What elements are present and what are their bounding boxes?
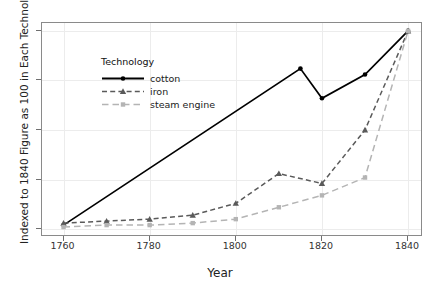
data-point <box>104 223 108 227</box>
plot-panel: Technology cottonironsteam engine <box>41 22 422 236</box>
data-point <box>233 200 239 206</box>
plot-series-layer <box>42 23 421 235</box>
data-point <box>406 29 410 33</box>
data-point <box>277 205 281 209</box>
data-point <box>191 221 195 225</box>
data-point <box>362 127 368 133</box>
x-tick-label: 1800 <box>215 240 255 251</box>
legend-key-icon <box>101 72 145 85</box>
legend-item-cotton[interactable]: cotton <box>101 72 215 85</box>
x-tick-mark <box>407 236 408 241</box>
legend-item-iron[interactable]: iron <box>101 85 215 98</box>
legend-title: Technology <box>101 56 215 67</box>
x-axis-title: Year <box>0 266 440 280</box>
legend-item-steam-engine[interactable]: steam engine <box>101 98 215 111</box>
data-point <box>147 223 151 227</box>
x-tick-mark <box>321 236 322 241</box>
legend-key-icon <box>101 98 145 111</box>
x-tick-mark <box>235 236 236 241</box>
legend-item-label: steam engine <box>150 99 215 110</box>
x-tick-label: 1820 <box>301 240 341 251</box>
data-point <box>363 72 368 77</box>
data-point <box>234 217 238 221</box>
x-tick-label: 1780 <box>129 240 169 251</box>
data-point <box>276 170 282 176</box>
y-axis-title: Indexed to 1840 Figure as 100 in Each Te… <box>18 4 30 244</box>
data-point <box>320 193 324 197</box>
chart-legend: Technology cottonironsteam engine <box>101 56 215 111</box>
x-tick-label: 1840 <box>387 240 427 251</box>
legend-key-icon <box>101 85 145 98</box>
x-tick-label: 1760 <box>43 240 83 251</box>
x-tick-mark <box>149 236 150 241</box>
chart-figure: Indexed to 1840 Figure as 100 in Each Te… <box>0 0 440 293</box>
data-point <box>320 96 325 101</box>
legend-item-label: iron <box>150 86 168 97</box>
data-point <box>61 225 65 229</box>
x-tick-mark <box>63 236 64 241</box>
legend-item-label: cotton <box>150 73 180 84</box>
data-point <box>298 66 303 71</box>
data-point <box>363 175 367 179</box>
legend-entries: cottonironsteam engine <box>101 72 215 111</box>
